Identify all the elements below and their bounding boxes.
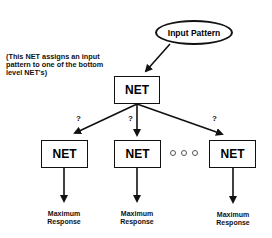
bottom-net-box-2: NET xyxy=(114,140,161,168)
bottom-net-label-2: NET xyxy=(126,147,150,161)
ellipsis-dot xyxy=(192,150,198,156)
max-response-label-3: Maximum Response xyxy=(205,211,261,227)
bottom-net-label-1: NET xyxy=(53,147,77,161)
bottom-net-box-1: NET xyxy=(41,140,88,168)
input-pattern-label: Input Pattern xyxy=(168,28,220,38)
input-pattern-node: Input Pattern xyxy=(155,20,233,45)
top-net-label: NET xyxy=(125,83,149,97)
ellipsis-dots xyxy=(170,150,198,156)
ellipsis-dot xyxy=(181,150,187,156)
bottom-net-label-3: NET xyxy=(221,147,245,161)
bottom-net-box-3: NET xyxy=(209,140,256,168)
branch-label-1: ? xyxy=(76,114,81,123)
max-response-label-1: Maximum Response xyxy=(36,210,92,226)
ellipsis-dot xyxy=(170,150,176,156)
branch-label-3: ? xyxy=(212,114,217,123)
top-net-box: NET xyxy=(114,76,160,104)
max-response-label-2: Maximum Response xyxy=(109,210,165,226)
branch-label-2: ? xyxy=(128,114,133,123)
annotation-text: (This NET assigns an input pattern to on… xyxy=(6,53,116,76)
